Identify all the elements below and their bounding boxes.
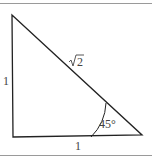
hypotenuse-label: 2 [77, 56, 83, 68]
angle-label: 45° [99, 118, 116, 130]
triangle-diagram: 1 2 45° 1 [0, 0, 152, 159]
left-side-label: 1 [3, 75, 9, 87]
bottom-side-label: 1 [75, 140, 81, 152]
triangle-shape [12, 15, 142, 137]
triangle-figure [0, 0, 152, 159]
